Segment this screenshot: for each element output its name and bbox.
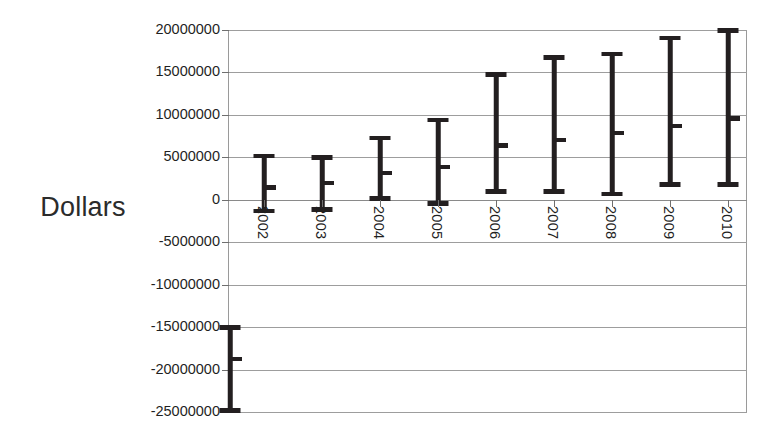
error-bar-stem xyxy=(610,54,615,194)
chart-root: Dollars 20000000150000001000000050000000… xyxy=(0,0,782,448)
error-bar-stem xyxy=(378,138,383,198)
error-bar-mid-marker xyxy=(554,138,566,143)
y-axis-tick-label: -15000000 xyxy=(102,319,220,333)
y-axis-tick-label: 15000000 xyxy=(102,64,220,78)
error-bar-cap-high xyxy=(370,136,391,141)
axis-range-marker xyxy=(216,30,244,412)
error-bar-stem xyxy=(494,74,499,191)
x-axis-tick-label: 2008 xyxy=(603,206,619,239)
x-axis-tick-label: 2004 xyxy=(371,206,387,239)
plot-right-border xyxy=(746,30,747,412)
error-bar-mid-marker xyxy=(264,185,276,190)
error-bar-cap-low xyxy=(486,189,507,194)
error-bar-cap-high xyxy=(254,154,275,159)
plot-area: 20000000150000001000000050000000-5000000… xyxy=(228,30,747,412)
error-bar-mid-marker xyxy=(438,165,450,170)
y-axis-tick-label: 5000000 xyxy=(102,149,220,163)
error-bar-stem xyxy=(726,30,731,184)
x-axis-tick-label: 2009 xyxy=(661,206,677,239)
x-axis-tick-label: 2005 xyxy=(429,206,445,239)
y-axis-tick-label: -20000000 xyxy=(102,362,220,376)
x-axis-tick-label: 2010 xyxy=(719,206,735,239)
y-axis-tick-label: 10000000 xyxy=(102,107,220,121)
error-bar-cap-low xyxy=(602,192,623,197)
error-bar-mid-marker xyxy=(230,357,242,362)
x-axis-tick-label: 2002 xyxy=(255,206,271,239)
error-bar-mid-marker xyxy=(612,131,624,136)
error-bar-cap-high xyxy=(660,36,681,41)
error-bar-cap-high xyxy=(602,52,623,57)
error-bar-mid-marker xyxy=(670,124,682,129)
y-axis-tick-label: 0 xyxy=(102,192,220,206)
y-axis-tick-label: -10000000 xyxy=(102,277,220,291)
error-bar-mid-marker xyxy=(322,181,334,186)
error-bar-stem xyxy=(668,38,673,185)
error-bar-cap-high xyxy=(428,118,449,123)
error-bar-cap-high xyxy=(220,325,241,330)
x-axis-tick-label: 2003 xyxy=(313,206,329,239)
gridline xyxy=(228,412,747,413)
y-axis-tick-label: 20000000 xyxy=(102,22,220,36)
error-bar-cap-low xyxy=(544,189,565,194)
error-bar-cap-low xyxy=(660,182,681,187)
error-bar-stem xyxy=(552,57,557,191)
error-bar-stem xyxy=(228,327,233,410)
error-bar-mid-marker xyxy=(380,171,392,176)
error-bar-cap-low xyxy=(220,408,241,413)
error-bar-cap-high xyxy=(544,55,565,60)
error-bar-mid-marker xyxy=(728,116,740,121)
y-axis-tick-label: -5000000 xyxy=(102,234,220,248)
error-bar-stem xyxy=(436,120,441,203)
y-axis-tick-label: -25000000 xyxy=(102,404,220,418)
error-bar-cap-low xyxy=(718,182,739,187)
error-bar-cap-high xyxy=(312,155,333,160)
error-bar-cap-high xyxy=(718,28,739,33)
x-axis-tick-label: 2007 xyxy=(545,206,561,239)
error-bar-mid-marker xyxy=(496,143,508,148)
x-axis-tick-label: 2006 xyxy=(487,206,503,239)
error-bar-cap-high xyxy=(486,72,507,77)
